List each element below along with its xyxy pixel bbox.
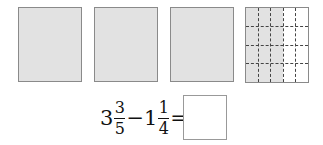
equation: 3 3 5 − 1 1 4 =: [100, 96, 188, 140]
answer-box[interactable]: [183, 95, 227, 140]
minus-sign: −: [126, 106, 144, 130]
denominator-2: 4: [159, 121, 169, 137]
whole-box-1: [18, 7, 82, 82]
whole-box-3: [170, 7, 234, 82]
fraction-1: 3 5: [114, 100, 125, 137]
grid-line-h: [246, 26, 308, 27]
whole-box-2: [94, 7, 158, 82]
numerator-2: 1: [159, 100, 169, 116]
fraction-2: 1 4: [158, 100, 169, 137]
fraction-grid-box: [245, 7, 309, 83]
numerator-1: 3: [115, 100, 125, 116]
whole-1: 3: [100, 106, 113, 130]
whole-2: 1: [144, 106, 157, 130]
grid-line-h: [246, 45, 308, 46]
grid-line-h: [246, 63, 308, 64]
denominator-1: 5: [115, 121, 125, 137]
